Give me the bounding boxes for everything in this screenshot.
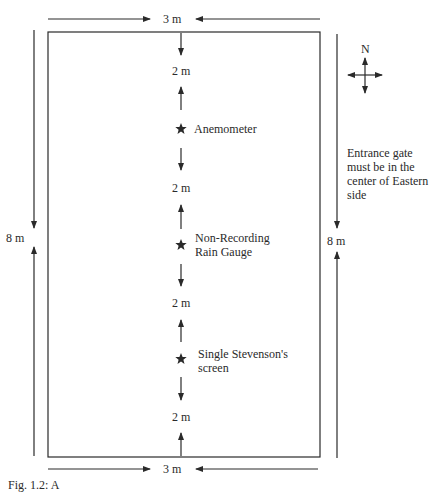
spacing-label-4: 2 m <box>172 410 190 424</box>
bottom-width-label: 3 m <box>163 462 181 476</box>
figure-caption: Fig. 1.2: A <box>8 478 59 492</box>
spacing-label-1: 2 m <box>172 64 190 78</box>
instrument-stevenson-screen: Single Stevenson's screen <box>198 347 288 375</box>
compass-north-label: N <box>361 42 370 56</box>
spacing-label-2: 2 m <box>172 181 190 195</box>
top-width-label: 3 m <box>163 12 181 26</box>
star-icon <box>175 353 186 364</box>
star-icon <box>175 239 186 250</box>
spacing-label-3: 2 m <box>172 296 190 310</box>
instrument-rain-gauge: Non-Recording Rain Gauge <box>195 231 270 259</box>
right-length-label: 8 m <box>327 234 345 248</box>
instrument-anemometer: Anemometer <box>194 122 257 136</box>
left-length-label: 8 m <box>6 231 24 245</box>
entrance-gate-note: Entrance gate must be in the center of E… <box>347 146 428 202</box>
star-icon <box>175 123 186 134</box>
compass-icon <box>348 58 382 93</box>
